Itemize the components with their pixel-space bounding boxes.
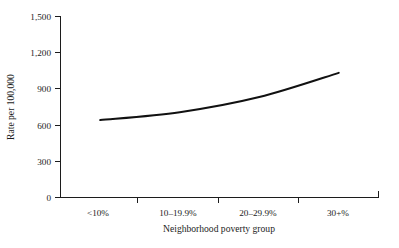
x-tick-label-0: <10% — [87, 208, 109, 218]
x-tick-label-3: 30+% — [327, 208, 349, 218]
x-axis-title: Neighborhood poverty group — [163, 223, 275, 234]
chart-figure: 1,500 1,200 900 600 300 0 Rate per 100,0… — [0, 0, 399, 248]
x-tick-label-1: 10–19.9% — [159, 208, 197, 218]
y-tick-label-900: 900 — [37, 84, 51, 94]
y-tick-label-0: 0 — [46, 193, 51, 203]
x-tick-label-2: 20–29.9% — [239, 208, 277, 218]
y-tick-label-300: 300 — [37, 157, 51, 167]
y-tick-label-1500: 1,500 — [30, 12, 51, 22]
line-chart: 1,500 1,200 900 600 300 0 Rate per 100,0… — [0, 0, 399, 248]
y-tick-label-1200: 1,200 — [30, 48, 51, 58]
y-tick-label-600: 600 — [37, 121, 51, 131]
y-axis-title: Rate per 100,000 — [5, 74, 16, 140]
